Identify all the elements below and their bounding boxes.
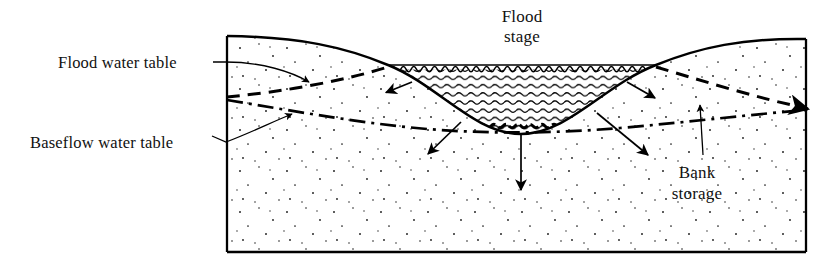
label-flood-stage-line1: Flood	[502, 7, 543, 26]
figure-root: Flood water table Baseflow water table F…	[0, 0, 831, 270]
label-bank-storage-line1: Bank	[679, 163, 716, 182]
label-baseflow-water-table: Baseflow water table	[30, 133, 173, 152]
label-flood-water-table: Flood water table	[58, 53, 177, 72]
cross-section-diagram: Flood water table Baseflow water table F…	[0, 0, 831, 270]
label-flood-stage-line2: stage	[504, 27, 540, 46]
label-bank-storage-line2: storage	[672, 184, 723, 203]
